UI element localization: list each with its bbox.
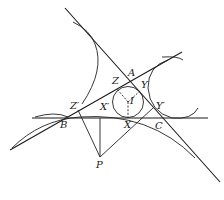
geometry-diagram: A Z Y I Z′ X′ Y′ B X C P [0,0,224,200]
segment-p-yp [100,108,153,157]
excircle-arc-bottom-left [35,114,68,117]
label-b: B [60,120,67,130]
diagram-canvas [0,0,224,200]
excircle-arc-left [73,22,98,104]
label-z-prime: Z′ [70,101,79,111]
radius-iz [117,89,128,102]
label-x: X [124,120,131,130]
label-x-prime: X′ [100,102,109,112]
label-z: Z [112,76,119,86]
label-i: I [130,96,134,106]
line-ac [65,8,220,182]
label-y: Y [141,80,148,90]
label-c: C [155,121,163,131]
label-p: P [96,160,103,170]
segment-zp-p [78,110,100,157]
label-a: A [128,68,135,78]
label-y-prime: Y′ [156,101,165,111]
